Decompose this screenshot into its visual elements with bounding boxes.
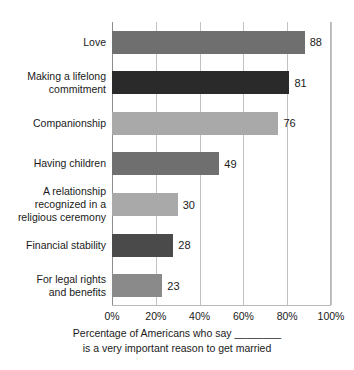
bar-value-label: 81 — [294, 77, 306, 88]
category-label: A relationshiprecognized in areligious c… — [0, 184, 106, 225]
bar-row: 81 — [112, 63, 330, 104]
x-tick-label: 100% — [318, 309, 345, 323]
category-label: For legal rightsand benefits — [0, 265, 106, 306]
category-label: Financial stability — [0, 225, 106, 266]
bar: 88 — [112, 31, 305, 54]
category-axis-labels: LoveMaking a lifelongcommitmentCompanion… — [0, 22, 106, 306]
bar-rows: 88817649302823 — [112, 22, 330, 305]
x-tick-label: 80% — [277, 309, 298, 323]
bar: 49 — [112, 152, 219, 175]
bar-value-label: 28 — [178, 240, 190, 251]
bar: 81 — [112, 71, 289, 94]
bar-chart: 88817649302823 LoveMaking a lifelongcomm… — [0, 0, 354, 370]
category-label: Having children — [0, 144, 106, 185]
x-tick-label: 20% — [145, 309, 166, 323]
bar-row: 30 — [112, 184, 330, 225]
x-tick-label: 0% — [104, 309, 119, 323]
x-tick-label: 40% — [189, 309, 210, 323]
bar-value-label: 76 — [283, 118, 295, 129]
bar-row: 23 — [112, 265, 330, 306]
plot-area: 88817649302823 — [112, 22, 331, 306]
category-label: Making a lifelongcommitment — [0, 63, 106, 104]
x-tick-label: 60% — [233, 309, 254, 323]
bar-row: 28 — [112, 225, 330, 266]
gridline-100 — [331, 22, 332, 305]
bar: 30 — [112, 193, 178, 216]
bar: 28 — [112, 234, 173, 257]
bar-value-label: 23 — [167, 280, 179, 291]
bar-row: 88 — [112, 22, 330, 63]
caption-line-2: is a very important reason to get marrie… — [0, 341, 354, 356]
bar: 76 — [112, 112, 278, 135]
bar-value-label: 49 — [224, 158, 236, 169]
bar: 23 — [112, 274, 162, 297]
category-label: Companionship — [0, 103, 106, 144]
bar-value-label: 30 — [183, 199, 195, 210]
x-axis-caption: Percentage of Americans who say ________… — [0, 326, 354, 355]
x-axis-tick-labels: 0%20%40%60%80%100% — [112, 309, 331, 325]
caption-line-1: Percentage of Americans who say ________ — [0, 326, 354, 341]
bar-row: 76 — [112, 103, 330, 144]
category-label: Love — [0, 22, 106, 63]
bar-value-label: 88 — [310, 37, 322, 48]
bar-row: 49 — [112, 144, 330, 185]
